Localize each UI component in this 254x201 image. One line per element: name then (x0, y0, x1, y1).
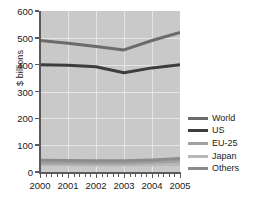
x-tick-mark-minor (90, 173, 91, 177)
y-axis-line (39, 11, 41, 173)
legend-item-label: World (212, 114, 235, 123)
y-tick-label: 300 (17, 86, 33, 97)
y-tick-label: 0 (28, 167, 33, 178)
plot-area (40, 11, 180, 172)
x-tick-label: 2002 (85, 180, 106, 191)
y-tick-mark (35, 91, 39, 93)
y-tick-mark (35, 144, 39, 146)
x-axis-line (39, 172, 181, 174)
legend-swatch-icon (188, 129, 208, 132)
x-tick-mark-minor (169, 173, 170, 177)
x-tick-mark-minor (46, 173, 47, 177)
x-tick-label: 2003 (113, 180, 134, 191)
line-chart: $ billions 0100200300400500600 200020012… (0, 0, 254, 201)
y-tick-label: 600 (17, 6, 33, 17)
series-lines (40, 11, 180, 172)
x-tick-label: 2001 (57, 180, 78, 191)
x-tick-label: 2000 (29, 180, 50, 191)
x-tick-mark (152, 173, 153, 178)
x-tick-mark-minor (113, 173, 114, 177)
legend-item[interactable]: EU-25 (188, 137, 254, 150)
y-tick-label: 400 (17, 59, 33, 70)
legend-item-label: Others (212, 164, 239, 173)
y-tick-label: 500 (17, 32, 33, 43)
legend-item-label: Japan (212, 152, 237, 161)
series-line (40, 159, 180, 161)
x-tick-mark-minor (118, 173, 119, 177)
x-tick-mark-minor (146, 173, 147, 177)
y-axis-tick-labels: 0100200300400500600 (0, 0, 36, 201)
chart-legend: WorldUSEU-25JapanOthers (188, 112, 254, 175)
x-tick-mark-minor (163, 173, 164, 177)
x-tick-mark (124, 173, 125, 178)
legend-item[interactable]: US (188, 125, 254, 138)
x-tick-mark-minor (74, 173, 75, 177)
legend-item[interactable]: Others (188, 162, 254, 175)
x-tick-mark-minor (174, 173, 175, 177)
x-tick-mark-minor (85, 173, 86, 177)
x-tick-mark-minor (102, 173, 103, 177)
y-tick-mark (35, 37, 39, 39)
x-tick-label: 2005 (169, 180, 190, 191)
legend-item-label: US (212, 126, 225, 135)
x-tick-mark-minor (51, 173, 52, 177)
x-tick-mark (180, 173, 181, 178)
x-tick-mark (68, 173, 69, 178)
x-tick-mark (40, 173, 41, 178)
legend-item[interactable]: World (188, 112, 254, 125)
series-line (40, 32, 180, 49)
legend-swatch-icon (188, 155, 208, 158)
x-tick-mark-minor (158, 173, 159, 177)
y-tick-mark (35, 10, 39, 12)
legend-swatch-icon (188, 167, 208, 170)
legend-swatch-icon (188, 142, 208, 145)
x-tick-mark-minor (79, 173, 80, 177)
legend-item-label: EU-25 (212, 139, 238, 148)
x-tick-mark-minor (141, 173, 142, 177)
legend-swatch-icon (188, 117, 208, 120)
y-tick-label: 200 (17, 113, 33, 124)
x-tick-mark-minor (107, 173, 108, 177)
x-tick-label: 2004 (141, 180, 162, 191)
legend-item[interactable]: Japan (188, 150, 254, 163)
x-tick-mark (96, 173, 97, 178)
x-tick-mark-minor (135, 173, 136, 177)
y-tick-mark (35, 64, 39, 66)
series-line (40, 65, 180, 73)
x-tick-mark-minor (57, 173, 58, 177)
y-tick-mark (35, 171, 39, 173)
x-tick-mark-minor (62, 173, 63, 177)
y-tick-label: 100 (17, 140, 33, 151)
y-tick-mark (35, 118, 39, 120)
x-tick-mark-minor (130, 173, 131, 177)
